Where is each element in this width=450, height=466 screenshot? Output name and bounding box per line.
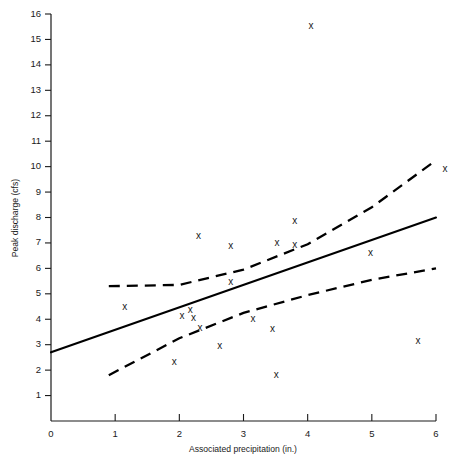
y-tick-label: 7 (36, 236, 41, 247)
x-tick-label: 0 (48, 428, 53, 439)
x-tick-label: 6 (433, 428, 438, 439)
y-tick-label: 15 (30, 33, 41, 44)
x-tick-label: 2 (177, 428, 182, 439)
y-tick-label: 13 (30, 84, 41, 95)
y-tick-label: 12 (30, 109, 41, 120)
data-points: xxxxxxxxxxxxxxxxxxxx (122, 20, 447, 380)
data-point-marker: x (197, 322, 202, 333)
axis-lines (51, 14, 436, 421)
y-tick-label: 5 (36, 287, 41, 298)
y-tick-label: 6 (36, 262, 41, 273)
upper-confidence-band (109, 160, 436, 286)
y-tick-label: 9 (36, 186, 41, 197)
plot-canvas: 12345678910111213141516 0123456 xxxxxxxx… (0, 0, 450, 466)
scatter-plot-figure: 12345678910111213141516 0123456 xxxxxxxx… (0, 0, 450, 466)
data-point-marker: x (368, 247, 373, 258)
data-point-marker: x (274, 237, 279, 248)
data-point-marker: x (292, 239, 297, 250)
data-point-marker: x (274, 369, 279, 380)
x-tick-label: 3 (241, 428, 246, 439)
data-point-marker: x (270, 323, 275, 334)
data-point-marker: x (251, 313, 256, 324)
x-axis-ticks: 0123456 (48, 414, 438, 439)
x-tick-label: 4 (305, 428, 310, 439)
y-axis-title: Peak discharge (cfs) (10, 179, 20, 257)
y-tick-label: 8 (36, 211, 41, 222)
data-point-marker: x (196, 230, 201, 241)
data-point-marker: x (416, 335, 421, 346)
x-tick-label: 5 (369, 428, 374, 439)
regression-line (51, 218, 436, 353)
y-tick-label: 1 (36, 389, 41, 400)
data-point-marker: x (122, 301, 127, 312)
data-point-marker: x (172, 356, 177, 367)
y-tick-label: 3 (36, 338, 41, 349)
confidence-bands (109, 160, 436, 375)
x-tick-label: 1 (113, 428, 118, 439)
y-tick-label: 11 (31, 135, 41, 146)
data-point-marker: x (228, 276, 233, 287)
data-point-marker: x (179, 310, 184, 321)
y-axis-ticks: 12345678910111213141516 (30, 8, 51, 401)
lower-confidence-band (109, 268, 436, 375)
data-point-marker: x (443, 163, 448, 174)
data-point-marker: x (292, 215, 297, 226)
data-point-marker: x (228, 240, 233, 251)
y-tick-label: 10 (30, 160, 41, 171)
data-point-marker: x (308, 20, 313, 31)
y-tick-label: 2 (36, 364, 41, 375)
y-tick-label: 4 (36, 313, 41, 324)
y-tick-label: 14 (30, 58, 41, 69)
data-point-marker: x (217, 340, 222, 351)
data-point-marker: x (191, 312, 196, 323)
y-tick-label: 16 (30, 8, 41, 19)
x-axis-title: Associated precipitation (in.) (189, 444, 297, 454)
